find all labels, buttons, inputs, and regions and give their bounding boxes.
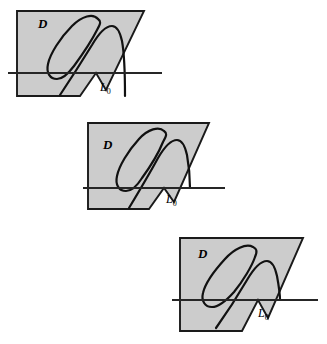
region-label-bottom: D <box>197 246 208 261</box>
region-d-shape-middle <box>88 123 209 209</box>
figure-stage: D L0 D L0 D L0 <box>0 0 327 344</box>
axis-label-subscript-middle: 0 <box>173 199 177 208</box>
panel-bottom: D L0 <box>172 238 318 331</box>
panel-top: D L0 <box>8 11 162 96</box>
panel-middle: D L0 <box>83 123 225 209</box>
axis-label-subscript-bottom: 0 <box>265 313 269 322</box>
region-label-top: D <box>37 16 48 31</box>
region-label-middle: D <box>102 137 113 152</box>
axis-label-subscript-top: 0 <box>107 87 111 96</box>
mathematical-diagram: D L0 D L0 D L0 <box>0 0 327 344</box>
